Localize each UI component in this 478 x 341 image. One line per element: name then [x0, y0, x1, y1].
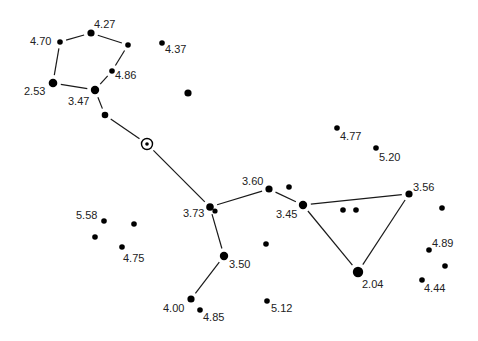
- magnitude-label: 4.77: [340, 130, 361, 142]
- star-dot: [220, 252, 228, 260]
- magnitude-label: 4.44: [424, 282, 445, 294]
- star-dot: [131, 221, 137, 227]
- star-dot: [92, 234, 98, 240]
- magnitude-label: 5.20: [379, 151, 400, 163]
- star-dot: [426, 247, 432, 253]
- star-dot: [299, 201, 307, 209]
- star-dot: [125, 42, 131, 48]
- magnitude-label: 3.73: [183, 207, 204, 219]
- star-dot: [442, 263, 448, 269]
- magnitude-label: 4.75: [123, 252, 144, 264]
- star-dot: [439, 205, 445, 211]
- magnitude-label: 3.60: [242, 175, 263, 187]
- magnitude-label: 4.70: [30, 35, 51, 47]
- magnitude-label: 4.37: [165, 43, 186, 55]
- star-dot: [119, 244, 125, 250]
- magnitude-label: 3.45: [276, 208, 297, 220]
- magnitude-label: 4.85: [203, 311, 224, 323]
- center-marker: [142, 139, 153, 150]
- star-dot: [187, 295, 194, 302]
- star-dot: [109, 68, 115, 74]
- star-dot: [57, 39, 63, 45]
- star-dot: [340, 207, 346, 213]
- magnitude-label: 3.56: [413, 181, 434, 193]
- star-dot: [264, 298, 270, 304]
- star-dot: [87, 29, 94, 36]
- star-dot: [212, 208, 217, 213]
- magnitude-label: 5.12: [271, 302, 292, 314]
- star-dot: [159, 40, 165, 46]
- magnitude-label: 3.50: [229, 258, 250, 270]
- magnitude-label: 4.89: [432, 237, 453, 249]
- star-dot: [197, 307, 203, 313]
- star-dot: [334, 125, 340, 131]
- star-dot: [102, 112, 109, 119]
- star-dot: [286, 184, 292, 190]
- magnitude-label: 4.27: [94, 18, 115, 30]
- center-dot-icon: [145, 142, 149, 146]
- star-dot: [91, 86, 99, 94]
- magnitude-label: 2.04: [362, 278, 383, 290]
- star-dot: [101, 218, 107, 224]
- chart-background: [0, 0, 478, 341]
- star-dot: [263, 241, 269, 247]
- star-dot: [206, 203, 214, 211]
- star-dot: [353, 267, 363, 277]
- magnitude-label: 2.53: [24, 85, 45, 97]
- magnitude-label: 5.58: [76, 209, 97, 221]
- star-dot: [405, 190, 412, 197]
- star-dot: [353, 207, 359, 213]
- star-chart: 4.704.274.862.533.474.373.733.603.453.56…: [0, 0, 478, 341]
- star-dot: [373, 145, 379, 151]
- star-dot: [49, 79, 58, 88]
- star-dot: [184, 89, 191, 96]
- magnitude-label: 3.47: [68, 95, 89, 107]
- magnitude-label: 4.86: [115, 69, 136, 81]
- star-dot: [265, 185, 272, 192]
- magnitude-label: 4.00: [163, 302, 184, 314]
